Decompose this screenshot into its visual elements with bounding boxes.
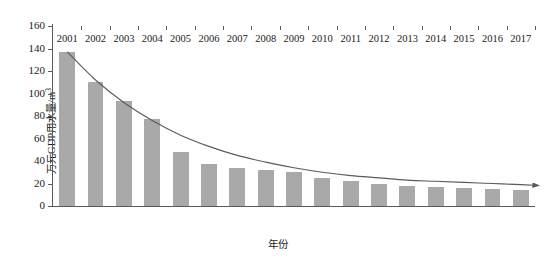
y-tick: 40 [48,161,53,162]
y-tick: 20 [48,184,53,185]
x-tick [138,26,139,30]
x-tick-label: 2016 [482,33,503,44]
x-tick [535,26,536,30]
x-tick-label: 2010 [312,33,333,44]
bar [286,172,302,206]
y-tick: 140 [48,49,53,50]
x-tick [478,26,479,30]
bar [116,101,132,206]
y-tick: 60 [48,139,53,140]
x-tick-label: 2012 [369,33,390,44]
bar [371,184,387,207]
x-tick-label: 2007 [227,33,248,44]
bar [59,52,75,206]
bar [173,152,189,206]
x-tick-label: 2013 [397,33,418,44]
trend-line-path [67,52,539,186]
y-tick-label: 60 [34,131,45,146]
x-tick [195,26,196,30]
x-tick [507,26,508,30]
x-tick-label: 2009 [284,33,305,44]
bar [343,181,359,206]
x-tick-label: 2008 [255,33,276,44]
x-tick [166,26,167,30]
y-tick: 100 [48,94,53,95]
y-tick-label: 160 [29,18,46,33]
y-tick-label: 20 [34,176,45,191]
y-tick: 80 [48,116,53,117]
bar [258,170,274,206]
bar [88,82,104,206]
x-tick [450,26,451,30]
x-tick-label: 2003 [113,33,134,44]
x-tick-label: 2002 [85,33,106,44]
y-tick-label: 40 [34,153,45,168]
x-tick-label: 2004 [142,33,163,44]
x-tick [365,26,366,30]
bar [144,119,160,206]
x-tick-label: 2011 [340,33,361,44]
bar [513,190,529,206]
y-tick: 160 [48,26,53,27]
x-tick-label: 2005 [170,33,191,44]
y-tick-label: 140 [29,41,46,56]
x-tick [393,26,394,30]
x-tick [251,26,252,30]
y-tick: 0 [48,206,53,207]
x-axis-title: 年份 [0,236,555,251]
bar [399,186,415,206]
plot-area: 020406080100120140160 200120022003200420… [53,26,535,206]
x-tick [223,26,224,30]
bar [314,178,330,206]
x-tick [81,26,82,30]
x-tick-label: 2015 [454,33,475,44]
bar [456,188,472,206]
x-tick-label: 2014 [425,33,446,44]
bar [201,164,217,206]
x-tick [422,26,423,30]
bar [428,187,444,206]
y-tick-label: 80 [34,108,45,123]
x-tick [308,26,309,30]
y-tick-label: 0 [40,198,46,213]
x-tick [337,26,338,30]
y-tick: 120 [48,71,53,72]
x-tick [110,26,111,30]
x-tick-label: 2017 [510,33,531,44]
y-tick-label: 120 [29,63,46,78]
bar [229,168,245,206]
y-tick-label: 100 [29,86,46,101]
chart-figure: 万元GDP用水量/m3 020406080100120140160 200120… [0,0,555,262]
x-axis-line [52,206,535,207]
x-tick [280,26,281,30]
x-tick-label: 2006 [198,33,219,44]
x-tick-label: 2001 [57,33,78,44]
bar [485,189,501,206]
